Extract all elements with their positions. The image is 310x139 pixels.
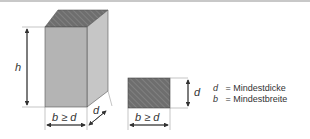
side-face (87, 10, 108, 107)
legend-item-b: b = Mindestbreite (213, 94, 287, 105)
front-face (45, 27, 87, 107)
height-dimension (22, 27, 45, 107)
legend: d = Mindestdicke b = Mindestbreite (213, 83, 287, 105)
section-hatched (128, 78, 170, 108)
legend-item-d: d = Mindestdicke (213, 83, 287, 94)
depth-label: d (93, 104, 99, 116)
wall-block (45, 10, 108, 107)
width-label: b ≥ d (52, 111, 76, 123)
height-label: h (15, 61, 21, 73)
section-width-label: b ≥ d (135, 111, 159, 123)
section-depth-label: d (194, 86, 200, 98)
